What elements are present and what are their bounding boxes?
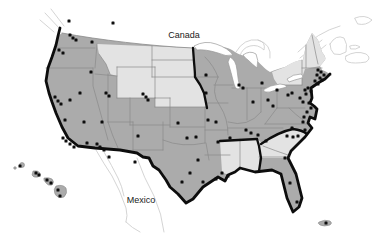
canada-label: Canada <box>168 30 200 40</box>
location-marker <box>314 80 317 83</box>
location-marker <box>134 161 137 164</box>
location-marker <box>90 71 93 74</box>
location-marker <box>68 20 71 23</box>
location-marker <box>54 96 57 99</box>
location-marker <box>177 122 180 125</box>
north-america-map: Canada Mexico <box>0 0 385 239</box>
location-marker <box>242 87 245 90</box>
hawaii-islands <box>14 163 67 198</box>
location-marker <box>302 121 305 124</box>
location-marker <box>57 100 60 103</box>
location-marker <box>207 119 210 122</box>
location-marker <box>215 178 218 181</box>
location-marker <box>257 134 260 137</box>
location-marker <box>79 92 82 95</box>
location-marker <box>325 222 328 225</box>
location-marker <box>267 99 270 102</box>
mexico-label: Mexico <box>127 195 156 205</box>
location-marker <box>323 74 326 77</box>
location-marker <box>105 92 108 95</box>
location-marker <box>50 182 53 185</box>
location-marker <box>215 121 218 124</box>
location-marker <box>186 137 189 140</box>
location-marker <box>303 116 306 119</box>
location-marker <box>99 146 102 149</box>
location-marker <box>142 93 145 96</box>
location-marker <box>83 121 86 124</box>
location-marker <box>73 146 76 149</box>
location-marker <box>46 179 49 182</box>
location-marker <box>291 127 294 130</box>
location-marker <box>238 84 241 87</box>
location-marker <box>91 41 94 44</box>
location-marker <box>197 159 200 162</box>
location-marker <box>108 156 111 159</box>
location-marker <box>296 201 299 204</box>
location-marker <box>205 74 208 77</box>
location-marker <box>252 101 255 104</box>
location-marker <box>19 165 22 168</box>
location-marker <box>60 103 63 106</box>
location-marker <box>112 22 115 25</box>
location-marker <box>229 137 232 140</box>
location-marker <box>307 87 310 90</box>
location-marker <box>320 71 323 74</box>
location-marker <box>286 135 289 138</box>
location-marker <box>35 172 38 175</box>
location-marker <box>96 143 99 146</box>
location-marker <box>227 175 230 178</box>
location-marker <box>317 69 320 72</box>
location-marker <box>62 137 65 140</box>
location-marker <box>202 181 205 184</box>
location-marker <box>299 97 302 100</box>
location-marker <box>145 96 148 99</box>
location-marker <box>57 189 60 192</box>
location-marker <box>69 34 72 37</box>
location-marker <box>316 74 319 77</box>
location-marker <box>305 93 308 96</box>
location-marker <box>62 52 65 55</box>
location-marker <box>291 92 294 95</box>
location-marker <box>101 121 104 124</box>
location-marker <box>297 135 300 138</box>
location-marker <box>221 172 224 175</box>
location-marker <box>304 129 307 132</box>
location-marker <box>205 92 208 95</box>
location-marker <box>306 111 309 114</box>
location-marker <box>137 135 140 138</box>
location-marker <box>287 94 290 97</box>
location-marker <box>72 37 75 40</box>
location-marker <box>75 39 78 42</box>
location-marker <box>321 79 324 82</box>
location-marker <box>38 174 41 177</box>
location-marker <box>195 136 198 139</box>
location-marker <box>284 157 287 160</box>
location-marker <box>292 136 295 139</box>
map-canvas: Canada Mexico <box>0 0 385 239</box>
location-marker <box>58 49 61 52</box>
location-marker <box>304 89 307 92</box>
location-marker <box>289 182 292 185</box>
location-marker <box>59 195 62 198</box>
location-marker <box>69 99 72 102</box>
location-marker <box>108 95 111 98</box>
location-marker <box>250 132 253 135</box>
location-marker <box>147 99 150 102</box>
location-marker <box>308 102 311 105</box>
location-marker <box>310 107 313 110</box>
location-marker <box>86 142 89 145</box>
location-marker <box>261 82 264 85</box>
location-marker <box>245 129 248 132</box>
location-marker <box>181 181 184 184</box>
location-marker <box>189 172 192 175</box>
location-marker <box>103 149 106 152</box>
location-marker <box>265 140 268 143</box>
location-marker <box>276 89 279 92</box>
location-marker <box>217 141 220 144</box>
location-marker <box>69 143 72 146</box>
location-marker <box>64 119 67 122</box>
location-marker <box>317 83 320 86</box>
location-marker <box>272 105 275 108</box>
location-marker <box>302 101 305 104</box>
location-marker <box>310 90 313 93</box>
